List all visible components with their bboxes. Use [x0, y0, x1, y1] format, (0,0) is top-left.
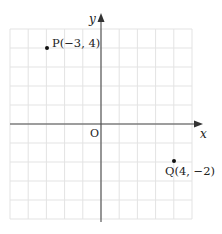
point-p-marker: [45, 46, 49, 50]
y-axis-label: y: [88, 12, 96, 26]
x-axis-label: x: [200, 127, 207, 141]
point-q-label: Q(4, −2): [165, 164, 215, 178]
y-axis-arrow-icon: [98, 13, 105, 22]
point-p: P(−3, 4): [45, 36, 100, 50]
origin-label: O: [90, 127, 99, 140]
point-q-marker: [172, 159, 176, 163]
coordinate-plane: x y O P(−3, 4) Q(4, −2): [0, 0, 222, 234]
point-p-label: P(−3, 4): [52, 36, 100, 50]
